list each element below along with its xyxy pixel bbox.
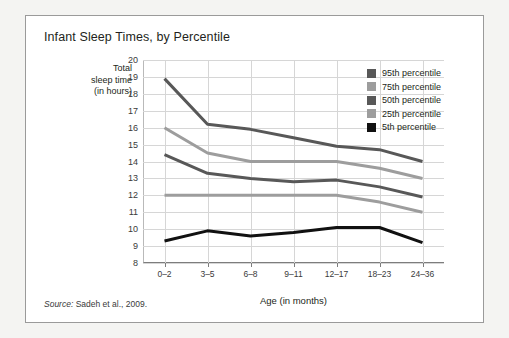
y-axis-title-line-3: (in hours)	[66, 86, 132, 98]
y-axis-title: Total sleep time (in hours)	[66, 63, 132, 98]
screenshot-root: Infant Sleep Times, by Percentile Total …	[0, 0, 509, 338]
legend: 95th percentile75th percentile50th perce…	[367, 68, 441, 132]
y-axis-title-line-1: Total	[66, 63, 132, 75]
x-tick-label-2: 6–8	[243, 269, 257, 279]
x-tick-mark-6	[423, 263, 424, 267]
y-tick-label-18: 18	[128, 89, 138, 99]
chart-card: Infant Sleep Times, by Percentile Total …	[25, 15, 484, 323]
x-tick-mark-5	[380, 263, 381, 267]
source-label: Source:	[44, 299, 73, 309]
legend-swatch-icon	[367, 123, 376, 132]
y-tick-label-17: 17	[128, 106, 138, 116]
legend-label: 25th percentile	[382, 109, 441, 119]
y-tick-label-13: 13	[128, 173, 138, 183]
source-text: Sadeh et al., 2009.	[76, 299, 147, 309]
x-tick-label-3: 9–11	[284, 269, 302, 279]
y-tick-label-11: 11	[129, 207, 138, 217]
x-axis-title: Age (in months)	[143, 295, 444, 306]
y-tick-label-19: 19	[128, 72, 138, 82]
y-tick-label-9: 9	[133, 241, 138, 251]
legend-item-4[interactable]: 5th percentile	[367, 122, 441, 132]
y-tick-label-16: 16	[128, 123, 138, 133]
x-tick-mark-3	[294, 263, 295, 267]
x-tick-label-4: 12–17	[325, 269, 349, 279]
y-tick-label-8: 8	[133, 258, 138, 268]
x-tick-mark-2	[251, 263, 252, 267]
y-tick-label-10: 10	[128, 224, 138, 234]
legend-label: 95th percentile	[382, 68, 441, 78]
x-tick-label-5: 18–23	[368, 269, 392, 279]
legend-item-2[interactable]: 50th percentile	[367, 95, 441, 105]
chart-title: Infant Sleep Times, by Percentile	[44, 30, 230, 44]
y-tick-label-20: 20	[128, 55, 138, 65]
x-tick-label-0: 0–2	[157, 269, 171, 279]
y-axis-title-line-2: sleep time	[66, 75, 132, 87]
x-tick-mark-1	[208, 263, 209, 267]
legend-label: 75th percentile	[382, 82, 441, 92]
y-tick-label-14: 14	[128, 157, 138, 167]
x-tick-label-1: 3–5	[200, 269, 214, 279]
legend-swatch-icon	[367, 96, 376, 105]
legend-item-0[interactable]: 95th percentile	[367, 68, 441, 78]
y-tick-label-15: 15	[128, 140, 138, 150]
legend-swatch-icon	[367, 69, 376, 78]
x-tick-label-6: 24–36	[411, 269, 435, 279]
legend-swatch-icon	[367, 82, 376, 91]
legend-item-1[interactable]: 75th percentile	[367, 82, 441, 92]
series-line-25th-percentile	[165, 195, 423, 212]
legend-swatch-icon	[367, 109, 376, 118]
series-line-5th-percentile	[165, 227, 423, 242]
source-note: Source: Sadeh et al., 2009.	[44, 299, 147, 309]
y-tick-label-12: 12	[128, 190, 138, 200]
legend-label: 50th percentile	[382, 95, 441, 105]
x-tick-mark-0	[165, 263, 166, 267]
legend-label: 5th percentile	[382, 122, 436, 132]
x-tick-mark-4	[337, 263, 338, 267]
legend-item-3[interactable]: 25th percentile	[367, 109, 441, 119]
plot-area: 201918171615141312111098 0–23–56–89–1112…	[143, 60, 444, 263]
